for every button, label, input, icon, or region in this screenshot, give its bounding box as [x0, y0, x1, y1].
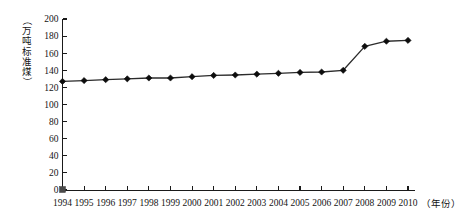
y-tick-label: 120 — [44, 83, 59, 93]
x-tick-label: 2006 — [312, 198, 331, 208]
x-tick-label: 1996 — [96, 198, 115, 208]
x-axis-title-label: （年份） — [421, 198, 460, 209]
data-point-marker — [124, 76, 130, 82]
data-point-marker — [59, 78, 65, 84]
y-axis-title-char: 标 — [22, 46, 32, 57]
data-point-marker — [81, 77, 87, 83]
y-tick-label: 0 — [54, 185, 59, 195]
y-axis-title-char: 万 — [22, 26, 32, 36]
y-tick-label: 60 — [49, 134, 59, 144]
data-point-marker — [319, 69, 325, 75]
origin-marker — [60, 187, 66, 193]
x-tick-label: 2007 — [334, 198, 353, 208]
series-markers — [59, 37, 411, 84]
data-point-marker — [297, 69, 303, 75]
y-tick-label: 100 — [44, 100, 59, 110]
y-tick-label: 40 — [49, 151, 59, 161]
x-tick-label: 1997 — [118, 198, 137, 208]
x-tick-label: 2003 — [247, 198, 266, 208]
y-axis-title: （万吨标准煤） — [22, 16, 33, 87]
x-axis: 1994199519961997199819992000200120022003… — [53, 186, 460, 209]
line-chart-figure: 020406080100120140160180200 （万吨标准煤） 1994… — [0, 0, 460, 220]
data-point-marker — [405, 37, 411, 43]
x-tick-label: 2005 — [291, 198, 310, 208]
y-tick-label: 180 — [44, 31, 59, 41]
y-tick-label: 20 — [49, 168, 59, 178]
x-tick-label: 2008 — [355, 198, 374, 208]
data-point-marker — [167, 75, 173, 81]
chart-canvas: 020406080100120140160180200 （万吨标准煤） 1994… — [0, 0, 460, 220]
y-tick-label: 140 — [44, 66, 59, 76]
x-tick-label: 2010 — [399, 198, 418, 208]
x-tick-label: 2004 — [269, 198, 288, 208]
x-tick-label: 1998 — [139, 198, 158, 208]
data-point-marker — [211, 72, 217, 78]
x-tick-label: 1999 — [161, 198, 180, 208]
data-point-marker — [275, 70, 281, 76]
x-tick-label: 1994 — [53, 198, 72, 208]
data-point-marker — [383, 38, 389, 44]
y-axis-title-char: 吨 — [22, 35, 32, 46]
x-tick-label: 2002 — [226, 198, 245, 208]
y-axis-title-char: 准 — [22, 57, 32, 67]
data-point-marker — [189, 74, 195, 80]
y-axis-ticks: 020406080100120140160180200 — [44, 14, 66, 195]
x-tick-label: 1995 — [75, 198, 94, 208]
y-axis-title-char: 煤 — [22, 66, 32, 77]
x-tick-label: 2000 — [183, 198, 202, 208]
data-series-group — [59, 37, 411, 192]
x-axis-ticks: 1994199519961997199819992000200120022003… — [53, 186, 418, 208]
y-tick-label: 80 — [49, 117, 59, 127]
data-point-marker — [146, 75, 152, 81]
y-tick-label: 200 — [44, 14, 59, 24]
y-axis: 020406080100120140160180200 （万吨标准煤） — [22, 14, 67, 195]
y-axis-title-char: （ — [22, 16, 33, 26]
data-point-marker — [232, 72, 238, 78]
data-point-marker — [103, 77, 109, 83]
x-tick-label: 2001 — [204, 198, 223, 208]
x-tick-label: 2009 — [377, 198, 396, 208]
y-tick-label: 160 — [44, 49, 59, 59]
data-point-marker — [254, 71, 260, 77]
y-axis-title-char: ） — [22, 77, 33, 87]
